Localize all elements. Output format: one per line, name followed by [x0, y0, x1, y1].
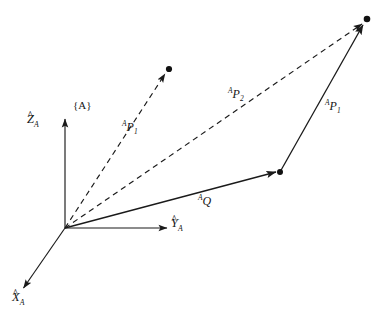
vector-ap1-solid-line [280, 25, 363, 172]
y-axis-hat-icon: ^ [171, 214, 176, 226]
dashed-vector-group [65, 24, 362, 228]
z-axis-letter: ^ Z [27, 113, 34, 126]
frame-label: {A} [73, 100, 92, 111]
vector-diagram-figure: {A} ^ Z A ^ Y A ^ X A AP1 AP2 AQ AP1 [0, 0, 388, 319]
vector-ap1-solid-subscript: 1 [337, 106, 341, 115]
diagram-canvas [0, 0, 388, 319]
solid-vector-group [65, 25, 363, 228]
x-axis-line [24, 228, 66, 288]
x-axis-subscript: A [20, 298, 25, 307]
vector-ap1-solid-label: AP1 [325, 99, 341, 115]
vector-ap1-dashed-subscript: 1 [134, 127, 138, 136]
x-axis-letter: ^ X [12, 291, 20, 304]
vector-ap1-dashed-label: AP1 [122, 120, 138, 136]
vector-aq-label: AQ [198, 194, 211, 210]
y-axis-letter: ^ Y [171, 217, 178, 230]
z-axis-hat-icon: ^ [27, 110, 32, 122]
x-axis-label: ^ X A [12, 291, 24, 306]
point-p1-dot [166, 66, 172, 72]
vector-ap2-dashed-label: AP2 [228, 87, 244, 103]
z-axis-label: ^ Z A [27, 113, 39, 128]
axis-group [24, 119, 168, 288]
point-q-dot [277, 169, 283, 175]
y-axis-label: ^ Y A [171, 217, 183, 232]
vector-ap2-subscript: 2 [240, 94, 244, 103]
y-axis-subscript: A [178, 224, 183, 233]
point-p2-dot [364, 16, 371, 23]
vector-ap2-dashed-line [65, 24, 362, 228]
z-axis-subscript: A [34, 120, 39, 129]
x-axis-hat-icon: ^ [13, 288, 18, 300]
